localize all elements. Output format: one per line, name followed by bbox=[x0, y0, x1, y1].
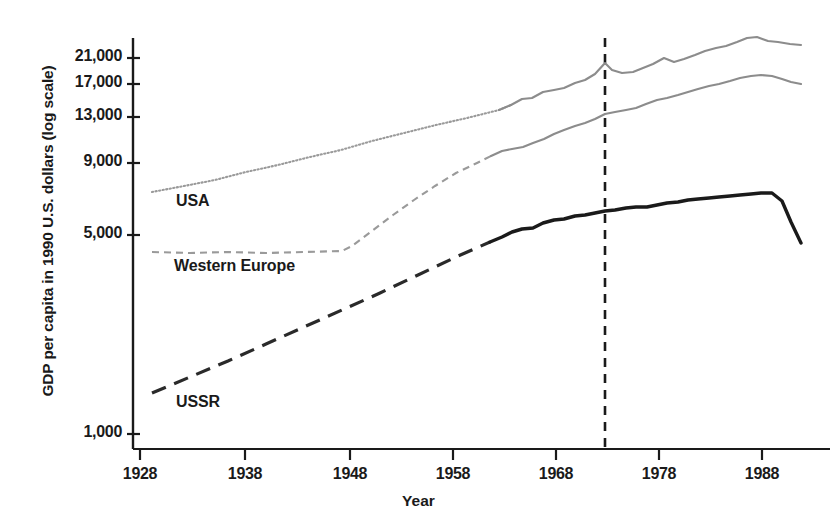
x-tick-label-1928: 1928 bbox=[102, 465, 178, 483]
x-tick-label-1978: 1978 bbox=[621, 465, 697, 483]
x-tick-label-1968: 1968 bbox=[518, 465, 594, 483]
series-usa-solid-segment bbox=[511, 37, 801, 105]
y-tick-label-17000: 17,000 bbox=[44, 73, 122, 91]
series-label-western-europe: Western Europe bbox=[174, 257, 295, 275]
x-tick-label-1958: 1958 bbox=[415, 465, 491, 483]
y-tick-label-1000: 1,000 bbox=[44, 423, 122, 441]
chart-plot-area bbox=[0, 0, 837, 528]
x-tick-label-1948: 1948 bbox=[312, 465, 388, 483]
x-tick-label-1938: 1938 bbox=[207, 465, 283, 483]
x-tick-marks bbox=[140, 449, 762, 460]
x-axis-title: Year bbox=[0, 492, 837, 510]
series-western-europe-solid-segment bbox=[491, 75, 801, 156]
series-ussr-solid-segment bbox=[490, 193, 801, 243]
series-usa-dotted-segment bbox=[152, 105, 511, 192]
y-tick-label-9000: 9,000 bbox=[44, 152, 122, 170]
gdp-per-capita-chart: GDP per capita in 1990 U.S. dollars (log… bbox=[0, 0, 837, 528]
series-ussr bbox=[152, 193, 801, 393]
series-western-europe bbox=[152, 75, 801, 253]
y-tick-label-21000: 21,000 bbox=[44, 47, 122, 65]
x-tick-label-1988: 1988 bbox=[724, 465, 800, 483]
y-tick-label-5000: 5,000 bbox=[44, 224, 122, 242]
series-label-ussr: USSR bbox=[176, 393, 220, 411]
y-tick-label-13000: 13,000 bbox=[44, 106, 122, 124]
series-usa bbox=[152, 37, 801, 192]
axes-group bbox=[133, 38, 830, 449]
series-usa-mid-link bbox=[499, 105, 511, 110]
series-label-usa: USA bbox=[176, 192, 209, 210]
